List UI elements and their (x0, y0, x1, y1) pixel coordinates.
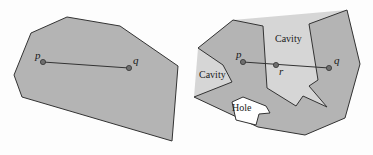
point-q-marker (326, 65, 331, 70)
hole-label: Hole (232, 102, 252, 113)
convex-polygon-figure: pq (14, 17, 178, 141)
point-r-marker (273, 62, 278, 67)
point-q-label: q (334, 54, 340, 66)
point-p-label: p (34, 49, 41, 61)
point-p-label: p (235, 48, 242, 60)
point-r-label: r (279, 65, 284, 77)
point-p-marker (240, 59, 245, 64)
point-p-marker (40, 59, 45, 64)
point-q-label: q (133, 54, 139, 66)
diagram-canvas: pq prqCavityCavityHole (0, 0, 373, 155)
non-convex-polygon-figure: prqCavityCavityHole (194, 10, 360, 135)
point-q-marker (126, 65, 131, 70)
convexity-diagram: pq prqCavityCavityHole (0, 0, 373, 155)
cavity-label: Cavity (199, 69, 226, 80)
convex-polygon (14, 17, 178, 141)
cavity-label: Cavity (275, 33, 302, 44)
